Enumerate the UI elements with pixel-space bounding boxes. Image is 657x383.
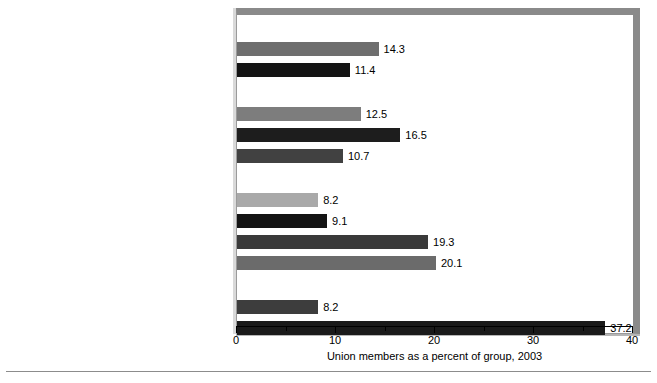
bar xyxy=(237,149,343,163)
x-axis-minor-tick xyxy=(484,327,485,331)
bar xyxy=(237,321,605,335)
x-axis-major-tick xyxy=(236,327,237,333)
bar xyxy=(237,235,428,249)
bar-value-label: 19.3 xyxy=(433,234,454,250)
x-axis-major-tick xyxy=(632,327,633,333)
bar-value-label: 16.5 xyxy=(405,127,426,143)
bar xyxy=(237,128,400,142)
bar-value-label: 8.2 xyxy=(323,299,338,315)
x-axis-major-tick xyxy=(335,327,336,333)
x-axis-major-tick xyxy=(533,327,534,333)
x-axis-tick-label: 10 xyxy=(320,334,350,346)
bar-value-label: 9.1 xyxy=(332,213,347,229)
bar-value-label: 20.1 xyxy=(441,255,462,271)
bar xyxy=(237,300,318,314)
x-axis-title: Union members as a percent of group, 200… xyxy=(236,350,633,362)
bar-value-label: 8.2 xyxy=(323,192,338,208)
bar xyxy=(237,193,318,207)
x-axis-minor-tick xyxy=(286,327,287,331)
bar-value-label: 10.7 xyxy=(348,148,369,164)
bar xyxy=(237,256,436,270)
plot-area-frame xyxy=(236,8,640,334)
x-axis-tick-label: 0 xyxy=(221,334,251,346)
bar xyxy=(237,42,379,56)
bar xyxy=(237,214,327,228)
chart-figure: By SexMen14.3Women11.4By RaceWhites12.5B… xyxy=(0,0,657,383)
bar-value-label: 12.5 xyxy=(366,106,387,122)
x-axis-tick-label: 20 xyxy=(419,334,449,346)
x-axis-tick-label: 30 xyxy=(518,334,548,346)
bar-value-label: 11.4 xyxy=(355,62,376,78)
figure-bottom-rule xyxy=(6,371,651,372)
bar-value-label: 14.3 xyxy=(384,41,405,57)
x-axis-major-tick xyxy=(434,327,435,333)
x-axis-tick-label: 40 xyxy=(617,334,647,346)
bar xyxy=(237,63,350,77)
x-axis-minor-tick xyxy=(385,327,386,331)
x-axis-minor-tick xyxy=(583,327,584,331)
bar xyxy=(237,107,361,121)
